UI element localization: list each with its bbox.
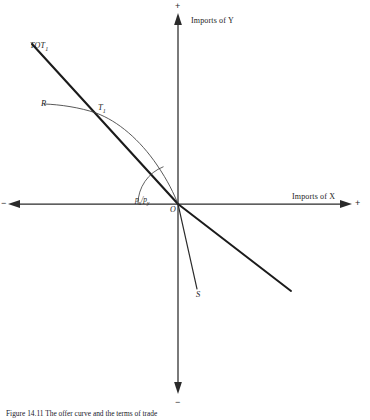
price-ratio-label: px/py <box>135 196 150 206</box>
y-axis-label-text: Imports of Y <box>191 16 234 25</box>
offer-curve-label: R <box>41 99 46 108</box>
y-axis-down-arrowhead <box>174 382 182 394</box>
offer-curve-label-text: R <box>41 98 46 108</box>
tangency-point-label: T1 <box>98 103 106 114</box>
y-axis-up-arrowhead <box>174 13 182 25</box>
x-axis-positive-sign: + <box>355 199 360 208</box>
x-axis-left-arrowhead <box>8 200 20 208</box>
price-ratio-denominator-subscript: y <box>147 200 149 206</box>
diagram-canvas <box>0 0 370 420</box>
x-axis-label: Imports of X <box>292 193 335 201</box>
tangency-point-label-subscript: 1 <box>103 108 106 114</box>
offer-curve-end-label: S <box>196 290 200 299</box>
tot-line-label: TOT1 <box>30 42 48 52</box>
y-axis-label: Imports of Y <box>191 17 234 25</box>
offer-curve-r <box>44 104 178 204</box>
tot-line-label-text: TOT <box>30 41 45 50</box>
origin-label: O <box>170 206 176 214</box>
x-axis-label-text: Imports of X <box>292 192 335 201</box>
figure-container: + Imports of Y Imports of X + − − TOT1 R… <box>0 0 370 420</box>
x-axis-negative-sign: − <box>1 199 6 208</box>
x-axis-right-arrowhead <box>340 200 352 208</box>
offer-curve-end-label-text: S <box>196 289 200 299</box>
y-axis-negative-sign: − <box>175 398 180 407</box>
y-axis-positive-sign: + <box>175 2 180 11</box>
tot-line <box>32 44 178 204</box>
figure-caption-text: Figure 14.11 The offer curve and the ter… <box>6 409 157 418</box>
tot-line-label-subscript: 1 <box>45 46 48 52</box>
figure-caption: Figure 14.11 The offer curve and the ter… <box>6 409 366 420</box>
